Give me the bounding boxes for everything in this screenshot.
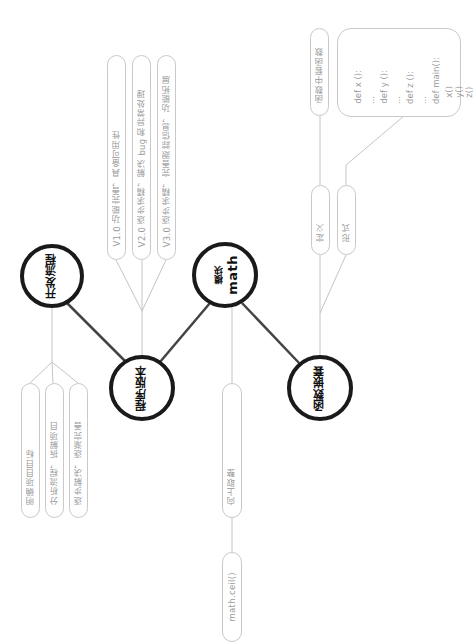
hub-label: 程序版本 [134, 365, 150, 411]
code-line: def z (): [406, 71, 415, 104]
hub-nested-functions[interactable]: 函数嵌套 [287, 355, 353, 421]
hub-label: 开发流程 [44, 253, 60, 299]
hub-label-main: math [225, 255, 240, 295]
leaf-label: V1.0 功能完善，具备可用性 [111, 130, 123, 247]
leaf-label: 函数中套函数 [314, 47, 326, 103]
code-line: ... [419, 96, 428, 104]
leaf-label: 分析流程，拆解项目 [49, 421, 61, 505]
leaf-form[interactable]: 形式 [337, 185, 356, 255]
hub-dev-process[interactable]: 开发流程 [20, 244, 84, 308]
leaf-ceil-desc[interactable]: 向上取整 [222, 383, 242, 518]
leaf-label: math.ceil() [227, 572, 237, 621]
code-line: def main(): [432, 57, 441, 104]
hub-label: 函数嵌套 [312, 365, 328, 411]
hub-label-sub: 模块 [211, 265, 224, 284]
leaf-analyze-process[interactable]: 分析流程，拆解项目 [45, 383, 64, 518]
code-line: x() [445, 86, 454, 98]
leaf-label: V3.0 逐步求精，完善跟踪信息，功能拓展 [161, 75, 173, 247]
code-line: ... [393, 96, 402, 104]
leaf-v1[interactable]: V1.0 功能完善，具备可用性 [107, 55, 126, 260]
code-line: def x (): [354, 70, 363, 104]
code-example-box[interactable]: def x (): ... def y (): ... def z (): ..… [337, 28, 461, 117]
hub-label-group: math 模块 [211, 255, 240, 295]
leaf-v3[interactable]: V3.0 逐步求精，完善跟踪信息，功能拓展 [157, 55, 176, 260]
leaf-label: V2.0 逐步求精，解决 bug 和异常处理 [136, 89, 148, 247]
leaf-define-goal[interactable]: 明确项目目标 [21, 383, 40, 518]
hub-program-versions[interactable]: 程序版本 [109, 355, 175, 421]
hub-math-module[interactable]: math 模块 [192, 242, 258, 308]
leaf-definition-detail[interactable]: 函数中套函数 [310, 28, 329, 116]
leaf-label: 明确项目目标 [25, 449, 37, 505]
link-math-to-nested [242, 303, 300, 364]
leaf-solve-step[interactable]: 逐步解决，逐渐完善 [69, 383, 88, 518]
leaf-v2[interactable]: V2.0 逐步求精，解决 bug 和异常处理 [132, 55, 151, 260]
code-call-lines: x() y() z() [445, 86, 474, 104]
link-versions-to-math [160, 303, 210, 362]
link-dev-to-versions [66, 302, 126, 362]
code-line: y() [455, 86, 464, 98]
leaf-label: 逐步解决，逐渐完善 [73, 421, 85, 505]
leaf-definition[interactable]: 定义 [311, 185, 330, 255]
code-line: ... [367, 96, 376, 104]
code-line: z() [465, 86, 474, 98]
leaf-label: 定义 [315, 223, 327, 242]
code-line: def y (): [380, 70, 389, 104]
leaf-label: 形式 [341, 223, 353, 242]
leaf-ceil-func[interactable]: math.ceil() [222, 552, 242, 642]
leaf-label: 向上取整 [226, 468, 238, 505]
